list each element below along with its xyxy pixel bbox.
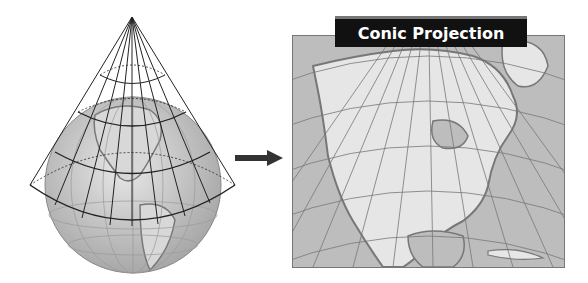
conic-projection-map (292, 35, 565, 268)
figure-title: Conic Projection (335, 16, 527, 47)
right-arrow-icon (235, 150, 283, 166)
globe-cone-illustration (0, 0, 250, 283)
